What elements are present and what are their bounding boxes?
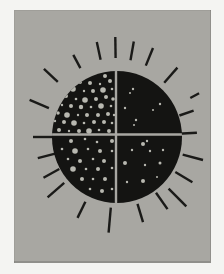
star-dot-top-right <box>133 124 135 126</box>
artwork-frame <box>0 0 224 274</box>
star-dot-top-left <box>104 95 108 99</box>
sun-ray <box>48 183 65 198</box>
sun-ray <box>179 111 193 116</box>
star-dot-top-left <box>62 120 66 124</box>
star-dot-bottom-left <box>110 139 114 143</box>
star-dot-top-left <box>90 106 93 109</box>
star-dot-top-left <box>75 98 78 101</box>
star-dot-top-left <box>111 122 114 125</box>
star-dot-bottom-right <box>141 142 145 146</box>
star-dot-bottom-right <box>126 181 128 183</box>
star-dot-bottom-left <box>67 158 70 161</box>
star-dot-top-left <box>77 114 79 116</box>
star-dot-bottom-left <box>100 189 104 193</box>
star-dot-top-left <box>61 104 63 106</box>
star-dot-bottom-left <box>85 168 88 171</box>
star-dot-bottom-right <box>146 140 148 142</box>
sun-ray <box>156 193 168 209</box>
star-dot-bottom-right <box>141 179 145 183</box>
star-dot-top-left <box>69 104 73 108</box>
star-dot-bottom-right <box>149 150 151 152</box>
star-dot-top-left <box>99 83 101 85</box>
star-dot-top-left <box>98 129 101 132</box>
star-dot-bottom-left <box>87 148 90 151</box>
star-dot-bottom-left <box>102 159 106 163</box>
star-dot-bottom-left <box>89 188 92 191</box>
star-dot-top-left <box>82 97 88 103</box>
star-dot-top-left <box>83 122 86 125</box>
sun-ray <box>78 202 86 218</box>
star-dot-top-left <box>85 74 88 77</box>
star-dot-top-left <box>98 103 104 109</box>
sun-ray <box>175 172 192 182</box>
star-dot-bottom-left <box>98 149 102 153</box>
star-dot-bottom-left <box>111 167 114 170</box>
star-dot-top-left <box>111 88 114 91</box>
star-dot-bottom-left <box>80 177 84 181</box>
sun-ray <box>146 48 153 66</box>
star-dot-bottom-right <box>156 176 158 178</box>
star-dot-top-left <box>107 129 111 133</box>
sun-ray <box>138 204 144 222</box>
star-dot-top-left <box>85 113 89 117</box>
star-dot-top-left <box>91 89 95 93</box>
star-dot-top-left <box>103 74 107 78</box>
sun-ray <box>38 154 55 159</box>
star-dot-bottom-left <box>111 188 114 191</box>
star-dot-bottom-right <box>123 161 127 165</box>
star-dot-top-left <box>70 86 76 92</box>
star-dot-top-left <box>92 120 96 124</box>
star-dot-top-left <box>108 79 112 83</box>
star-dot-top-left <box>56 111 60 115</box>
sun-ray <box>44 169 60 178</box>
star-dot-top-left <box>78 80 82 84</box>
star-dot-top-right <box>124 107 126 109</box>
star-dot-bottom-left <box>103 177 107 181</box>
star-dot-top-right <box>132 88 134 90</box>
star-dot-top-left <box>83 90 85 92</box>
star-dot-top-left <box>79 105 83 109</box>
star-dot-top-left <box>94 72 96 74</box>
star-dot-top-left <box>110 105 113 108</box>
star-dot-top-left <box>68 130 70 132</box>
star-dot-bottom-left <box>84 138 87 141</box>
star-dot-top-left <box>111 97 115 101</box>
star-dot-top-left <box>64 94 68 98</box>
star-dot-top-left <box>57 128 61 132</box>
star-dot-top-left <box>113 114 115 116</box>
star-dot-bottom-left <box>92 158 95 161</box>
sun-ray <box>131 42 134 61</box>
star-dot-bottom-left <box>70 166 76 172</box>
star-dot-top-left <box>71 120 77 126</box>
sun-ray <box>183 155 203 160</box>
star-dot-top-right <box>159 103 161 105</box>
star-dot-top-left <box>96 113 100 117</box>
star-dot-top-left <box>54 120 56 122</box>
star-dot-bottom-right <box>131 149 133 151</box>
star-dot-top-left <box>88 81 92 85</box>
star-dot-bottom-right <box>144 164 146 166</box>
star-dot-bottom-left <box>61 148 64 151</box>
artwork-svg <box>0 0 224 274</box>
star-dot-top-left <box>94 97 98 101</box>
star-dot-top-left <box>106 112 110 116</box>
star-dot-top-right <box>129 92 131 94</box>
star-dot-top-left <box>86 128 92 134</box>
sun-ray <box>44 69 58 82</box>
sun-ray <box>164 68 177 83</box>
sun-ray <box>190 93 199 98</box>
sun-ray <box>73 55 80 68</box>
star-dot-bottom-right <box>159 162 162 165</box>
star-dot-top-right <box>135 119 137 121</box>
star-dot-top-left <box>102 120 106 124</box>
star-dot-bottom-left <box>96 141 99 144</box>
star-dot-bottom-left <box>92 178 95 181</box>
star-dot-bottom-left <box>96 167 100 171</box>
star-dot-bottom-left <box>69 139 73 143</box>
sun-ray <box>169 189 187 207</box>
star-dot-top-left <box>77 129 81 133</box>
star-dot-top-left <box>64 112 70 118</box>
star-dot-bottom-left <box>111 150 114 153</box>
sun-ray <box>30 100 49 108</box>
star-dot-top-right <box>152 109 154 111</box>
